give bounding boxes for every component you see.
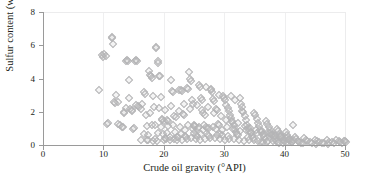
scatter-chart-figure: 0246801020304050 Crude oil gravity (°API… [0, 0, 368, 184]
y-axis-title: Sulfur content (wt.%) [4, 0, 16, 91]
y-tick-6 [39, 45, 43, 46]
x-axis-line [43, 145, 346, 146]
y-tick-label-0: 0 [11, 141, 35, 150]
x-tick-label-50: 50 [330, 150, 360, 159]
y-tick-4 [39, 79, 43, 80]
x-tick-label-10: 10 [88, 150, 118, 159]
y-tick-8 [39, 12, 43, 13]
x-tick-label-40: 40 [270, 150, 300, 159]
plot-area [43, 12, 346, 146]
x-tick-label-0: 0 [28, 150, 58, 159]
y-tick-2 [39, 112, 43, 113]
x-tick-label-20: 20 [149, 150, 179, 159]
x-tick-label-30: 30 [209, 150, 239, 159]
y-axis-line [43, 12, 44, 146]
y-tick-label-2: 2 [11, 108, 35, 117]
gridline-x-40 [285, 13, 286, 146]
x-axis-title: Crude oil gravity (°API) [43, 162, 346, 174]
